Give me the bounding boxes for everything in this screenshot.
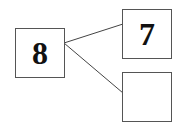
line-to-part-2 [64, 43, 123, 93]
whole-value: 8 [32, 35, 48, 72]
whole-box: 8 [15, 28, 65, 78]
part-1-value: 7 [139, 16, 155, 53]
part-box-1: 7 [122, 9, 172, 59]
line-to-part-1 [64, 24, 123, 43]
part-box-2-empty[interactable] [122, 72, 172, 122]
